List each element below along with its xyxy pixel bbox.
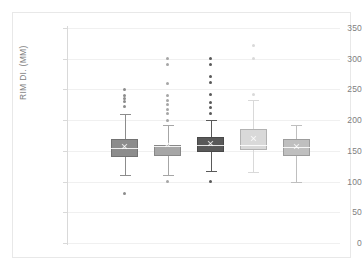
plot-area (68, 28, 340, 243)
whisker-lower (296, 156, 297, 181)
y-axis-tick (63, 28, 67, 29)
whisker-cap-upper (291, 125, 302, 126)
y-axis-tick (63, 212, 67, 213)
whisker-cap-lower (291, 182, 302, 183)
y-axis-tick (63, 59, 67, 60)
y-axis-tick (63, 151, 67, 152)
y-axis-tick (63, 89, 67, 90)
y-axis-title: RIM DI. (MM) (18, 86, 28, 100)
box-plot-chart: RIM DI. (MM) 050100150200250300350 (0, 0, 362, 279)
whisker-upper (296, 125, 297, 139)
y-axis-tick (63, 120, 67, 121)
y-axis-tick (63, 243, 67, 244)
y-axis-tick (63, 182, 67, 183)
box-plot-series[interactable] (68, 28, 340, 243)
gridline (68, 243, 340, 244)
mean-marker-icon (293, 143, 300, 150)
